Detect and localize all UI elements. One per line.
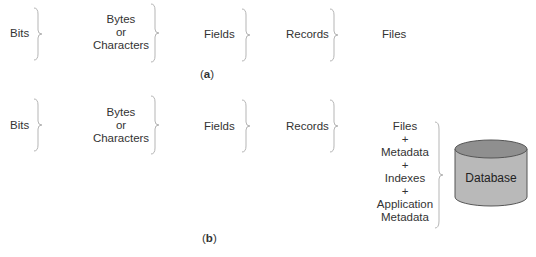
brace-fields <box>241 100 251 152</box>
database-label: Database <box>453 172 529 185</box>
brace-files <box>434 122 444 228</box>
bytes-characters-label: Bytes or Characters <box>88 106 154 145</box>
brace-bits <box>33 8 43 60</box>
brace-bytes <box>150 96 160 154</box>
fields-label: Fields <box>204 28 235 41</box>
bytes-characters-label: Bytes or Characters <box>88 13 154 52</box>
records-label: Records <box>286 120 329 133</box>
bits-label: Bits <box>10 27 29 40</box>
files-metadata-stack: Files + Metadata + Indexes + Application… <box>374 120 436 224</box>
brace-bits <box>33 99 43 151</box>
brace-records <box>329 9 339 61</box>
bits-label: Bits <box>10 119 29 132</box>
caption-a: (a) <box>200 68 214 80</box>
brace-bytes <box>150 4 160 62</box>
files-label: Files <box>382 28 406 41</box>
brace-records <box>329 100 339 152</box>
caption-b: (b) <box>202 232 217 244</box>
brace-fields <box>241 9 251 61</box>
records-label: Records <box>286 28 329 41</box>
fields-label: Fields <box>204 120 235 133</box>
